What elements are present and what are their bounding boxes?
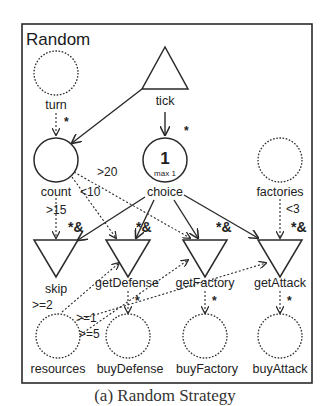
label-getfactory: getFactory xyxy=(175,276,235,290)
choice-capacity: max 1 xyxy=(154,169,176,178)
pool-factories[interactable] xyxy=(258,138,302,182)
edge-label-getattack-mod: *& xyxy=(291,219,307,235)
edge-label-count-lt10: <10 xyxy=(80,185,101,199)
edge-label-resources-ge5: >=5 xyxy=(79,327,100,341)
pool-turn[interactable] xyxy=(34,51,78,95)
pool-buydefense[interactable] xyxy=(106,314,150,358)
label-buydefense: buyDefense xyxy=(97,362,164,376)
edge-label-resources-ge1: >=1 xyxy=(76,311,97,325)
edge-label-getdefense-mod: *& xyxy=(136,219,152,235)
node-choice[interactable]: 1 max 1 choice xyxy=(143,138,187,199)
label-buyfactory: buyFactory xyxy=(176,362,239,376)
label-turn: turn xyxy=(45,98,67,112)
edge-label-getattack-out: * xyxy=(287,294,292,308)
diagram-title: Random xyxy=(26,30,90,49)
pool-count[interactable] xyxy=(34,138,78,182)
edge-label-turn-count: * xyxy=(64,115,69,129)
label-choice: choice xyxy=(147,185,183,199)
edge-label-tick-choice: * xyxy=(184,124,189,138)
edge-label-factories-lt3: <3 xyxy=(286,202,300,216)
figure-caption: (a) Random Strategy xyxy=(0,386,330,406)
node-factories[interactable]: factories xyxy=(256,138,303,199)
edge-label-skip-mod: *& xyxy=(68,219,84,235)
edge-label-resources-ge2: >=2 xyxy=(32,298,53,312)
label-skip: skip xyxy=(45,282,67,296)
label-count: count xyxy=(41,185,72,199)
pool-resources[interactable] xyxy=(36,314,80,358)
edge-label-getfactory-out: * xyxy=(212,294,217,308)
label-resources: resources xyxy=(31,362,86,376)
label-buyattack: buyAttack xyxy=(253,362,309,376)
label-factories: factories xyxy=(256,185,303,199)
edge-label-getdefense-out: * xyxy=(135,294,140,308)
pool-buyfactory[interactable] xyxy=(183,314,227,358)
choice-value: 1 xyxy=(160,149,169,168)
edge-label-count-gt20: >20 xyxy=(97,165,118,179)
label-tick: tick xyxy=(156,94,176,108)
edge-label-getfactory-mod: *& xyxy=(216,219,232,235)
pool-buyattack[interactable] xyxy=(258,314,302,358)
label-getattack: getAttack xyxy=(254,276,307,290)
label-getdefense: getDefense xyxy=(95,276,159,290)
edge-label-count-gt15: >15 xyxy=(46,203,67,217)
